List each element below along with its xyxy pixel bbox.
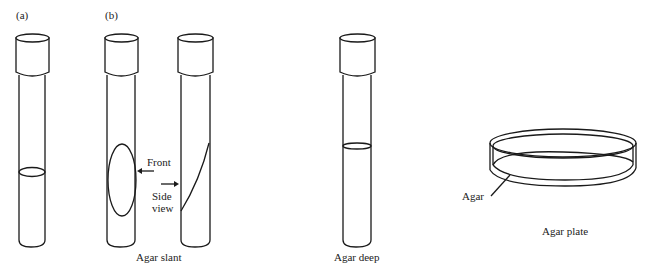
panel-label-b: (b) [105,9,118,22]
panel-label-a: (a) [16,9,29,22]
tube-slant-front [105,34,138,247]
petri-dish [490,129,636,186]
tube-slant-side [178,34,213,247]
tube-a [16,34,49,247]
front-label: Front [147,156,171,168]
slant-surface-ellipse [108,144,136,216]
side-view-label-1: Side [152,190,172,202]
slant-surface-line [181,143,209,211]
side-view-label-2: view [152,202,173,214]
caption-agar-slant: Agar slant [136,251,182,263]
caption-agar-deep: Agar deep [334,251,380,263]
culture-media-diagram: (a) (b) Front Side view Agar slant Agar … [0,0,646,270]
agar-pointer-label: Agar [462,190,484,202]
agar-deep-surface [343,143,371,149]
caption-agar-plate: Agar plate [542,225,588,237]
tube-agar-deep [340,34,375,247]
liquid-surface [19,168,45,177]
